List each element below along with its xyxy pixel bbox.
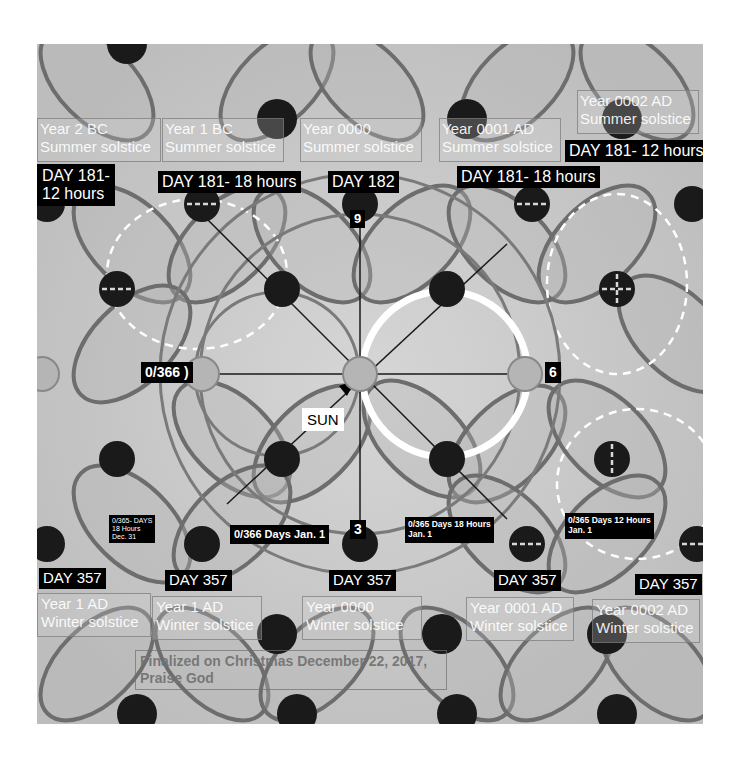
- clock-mark-top: 9: [350, 210, 365, 228]
- year-text: Year 0000: [303, 120, 419, 138]
- date-text: Jan. 1: [568, 526, 651, 536]
- event-text: Summer solstice: [580, 110, 696, 128]
- event-text: Summer solstice: [165, 138, 281, 156]
- year-text: Year 0001 AD: [470, 599, 570, 617]
- year-text: Year 2 BC: [40, 120, 158, 138]
- event-text: Summer solstice: [40, 138, 158, 156]
- winter-solstice-label-5: Year 0002 AD Winter solstice: [592, 599, 700, 643]
- winter-solstice-label-1: Year 1 AD Winter solstice: [37, 593, 151, 637]
- clock-mark-bottom: 3: [350, 520, 366, 539]
- year-text: Year 1 AD: [156, 598, 258, 616]
- year-text: Year 1 AD: [41, 595, 147, 613]
- new-year-label-jan1-365-18h: 0/365 Days 18 Hours Jan. 1: [405, 517, 494, 543]
- new-year-label-jan1-365-12h: 0/365 Days 12 Hours Jan. 1: [565, 513, 654, 539]
- event-text: Winter solstice: [156, 616, 258, 634]
- summer-solstice-label-year-0000: Year 0000 Summer solstice: [300, 118, 422, 162]
- summer-day-label-2: DAY 181- 18 hours: [158, 171, 301, 193]
- event-text: Summer solstice: [303, 138, 419, 156]
- day-text: DAY 181-: [42, 167, 110, 185]
- winter-day-label-3: DAY 357: [329, 570, 396, 591]
- event-text: Summer solstice: [442, 138, 558, 156]
- year-text: Year 0002 AD: [580, 92, 696, 110]
- hours-text: 12 hours: [42, 185, 110, 203]
- clock-mark-left: 0/366 ): [141, 362, 193, 383]
- winter-day-label-2: DAY 357: [165, 570, 232, 591]
- summer-day-label-4: DAY 181- 18 hours: [457, 166, 600, 188]
- summer-solstice-label-year-1bc: Year 1 BC Summer solstice: [162, 118, 284, 162]
- date-text: Jan. 1: [408, 530, 491, 540]
- event-text: Winter solstice: [596, 619, 696, 637]
- date-text: Dec. 31: [112, 533, 152, 541]
- note-line-2: Praise God: [140, 670, 442, 687]
- summer-solstice-label-year-0002-ad: Year 0002 AD Summer solstice: [577, 90, 699, 134]
- year-text: Year 0000: [306, 598, 418, 616]
- summer-solstice-label-year-0001-ad: Year 0001 AD Summer solstice: [439, 118, 561, 162]
- note-line-1: Finalized on Christmas December 22, 2017…: [140, 653, 442, 670]
- summer-day-label-1: DAY 181- 12 hours: [37, 164, 115, 206]
- event-text: Winter solstice: [41, 613, 147, 631]
- summer-day-label-5: DAY 181- 12 hours: [565, 140, 703, 162]
- winter-solstice-label-2: Year 1 AD Winter solstice: [152, 596, 262, 640]
- days-text: 0/365- DAYS: [112, 517, 152, 525]
- year-text: Year 1 BC: [165, 120, 281, 138]
- summer-day-label-3: DAY 182: [328, 171, 399, 193]
- winter-day-label-5: DAY 357: [635, 574, 702, 595]
- year-text: Year 0001 AD: [442, 120, 558, 138]
- winter-solstice-label-4: Year 0001 AD Winter solstice: [466, 597, 574, 641]
- sun-label: SUN: [302, 408, 344, 431]
- winter-solstice-label-3: Year 0000 Winter solstice: [302, 596, 422, 640]
- event-text: Winter solstice: [470, 617, 570, 635]
- finalized-note: Finalized on Christmas December 22, 2017…: [135, 650, 447, 690]
- new-year-label-jan1-366: 0/366 Days Jan. 1: [230, 525, 329, 544]
- new-year-label-dec31: 0/365- DAYS 18 Hours Dec. 31: [109, 515, 155, 543]
- year-text: Year 0002 AD: [596, 601, 696, 619]
- clock-mark-right: 6: [545, 362, 561, 383]
- event-text: Winter solstice: [306, 616, 418, 634]
- hours-text: 18 Hours: [112, 525, 152, 533]
- calendar-diagram-photo: Year 2 BC Summer solstice Year 1 BC Summ…: [37, 44, 703, 724]
- winter-day-label-1: DAY 357: [39, 568, 106, 589]
- winter-day-label-4: DAY 357: [494, 570, 561, 591]
- summer-solstice-label-year-2bc: Year 2 BC Summer solstice: [37, 118, 161, 162]
